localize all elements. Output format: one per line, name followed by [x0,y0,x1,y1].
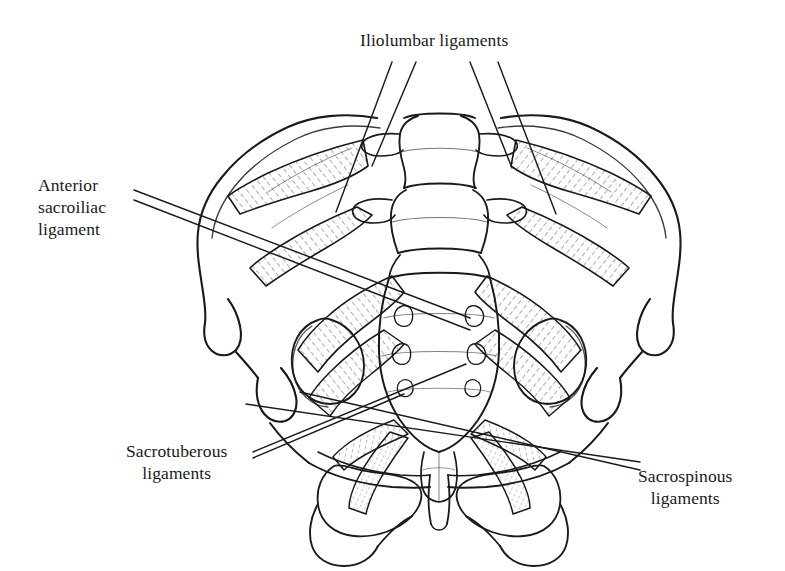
label-anterior-sacroiliac-line-2: sacroiliac [38,196,106,218]
label-sacrospinous-line-2: ligaments [638,487,733,509]
iliolumbar-ligament-right [507,140,651,286]
label-sacrotuberous-line-1: Sacrotuberous [126,440,227,462]
label-anterior-sacroiliac-ligament: Anterior sacroiliac ligament [38,174,106,240]
leader-anterior-sacroiliac-2 [134,200,470,330]
leader-lines [134,62,640,470]
label-sacrospinous-line-1: Sacrospinous [638,465,733,487]
label-anterior-sacroiliac-line-3: ligament [38,218,106,240]
label-iliolumbar-ligaments: Iliolumbar ligaments [360,29,508,51]
label-anterior-sacroiliac-line-1: Anterior [38,174,106,196]
label-iliolumbar-line-1: Iliolumbar ligaments [360,29,508,51]
leader-iliolumbar-4 [498,62,556,214]
label-sacrotuberous-line-2: ligaments [126,462,227,484]
figure-canvas: Iliolumbar ligaments Anterior sacroiliac… [0,0,785,571]
sacrum [379,278,499,502]
label-sacrospinous-ligaments: Sacrospinous ligaments [638,465,733,509]
label-sacrotuberous-ligaments: Sacrotuberous ligaments [126,440,227,484]
leader-sacrospinous-1 [246,404,640,462]
